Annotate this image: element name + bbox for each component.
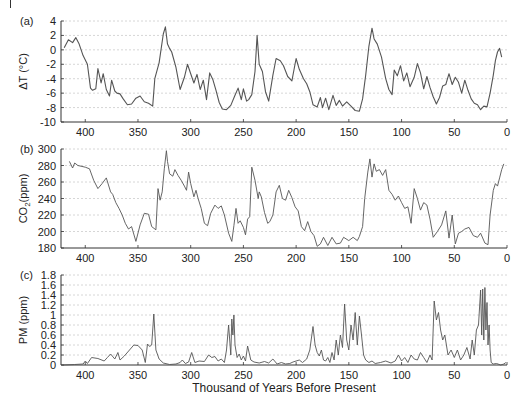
y-tick-label: -10 (40, 116, 56, 128)
x-tick-label: 350 (129, 252, 147, 264)
x-tick-label: 400 (76, 252, 94, 264)
panel-label: (b) (20, 143, 33, 155)
x-tick-label: 100 (392, 369, 410, 381)
y-tick-label: 280 (38, 160, 56, 172)
x-tick-label: 250 (234, 369, 252, 381)
x-tick-label: 100 (392, 252, 410, 264)
x-tick-label: 250 (234, 126, 252, 138)
x-tick-label: 300 (182, 252, 200, 264)
x-tick-label: 350 (129, 126, 147, 138)
panel-label: (a) (20, 15, 33, 27)
y-tick-label: 2 (50, 29, 56, 41)
figure: 420-2-4-6-8-10400350300250200150100500(a… (0, 0, 527, 408)
x-tick-label: 250 (234, 252, 252, 264)
x-tick-label: 0 (504, 126, 510, 138)
y-tick-label: 260 (38, 176, 56, 188)
data-series-line (64, 27, 502, 111)
y-axis-label: ΔT (°C) (17, 53, 29, 90)
y-axis-label: CO2(ppm) (17, 174, 32, 224)
y-tick-label: 240 (38, 193, 56, 205)
x-tick-label: 50 (448, 369, 460, 381)
panel-label: (c) (20, 269, 33, 281)
x-tick-label: 150 (340, 369, 358, 381)
y-tick-label: 200 (38, 226, 56, 238)
data-series-line (62, 288, 506, 366)
y-tick-label: -2 (46, 58, 56, 70)
y-axis-label: PM (ppm) (17, 296, 29, 344)
y-tick-label: 220 (38, 209, 56, 221)
x-tick-label: 200 (287, 369, 305, 381)
x-tick-label: 350 (129, 369, 147, 381)
y-tick-label: -6 (46, 87, 56, 99)
y-tick-label: 4 (50, 15, 56, 27)
x-tick-label: 200 (287, 252, 305, 264)
x-tick-label: 150 (340, 126, 358, 138)
x-tick-label: 400 (76, 369, 94, 381)
y-tick-label: 180 (38, 242, 56, 254)
x-tick-label: 50 (448, 126, 460, 138)
x-tick-label: 0 (504, 369, 510, 381)
y-tick-label: -4 (46, 73, 56, 85)
x-axis-label: Thousand of Years Before Present (192, 381, 376, 395)
x-tick-label: 300 (182, 369, 200, 381)
y-tick-label: 0 (50, 44, 56, 56)
y-tick-label: 300 (38, 143, 56, 155)
y-tick-label: -8 (46, 102, 56, 114)
x-tick-label: 400 (76, 126, 94, 138)
x-tick-label: 50 (448, 252, 460, 264)
x-tick-label: 150 (340, 252, 358, 264)
x-tick-label: 100 (392, 126, 410, 138)
x-tick-label: 200 (287, 126, 305, 138)
y-tick-label: 0 (50, 359, 56, 371)
x-tick-label: 300 (182, 126, 200, 138)
x-tick-label: 0 (504, 252, 510, 264)
